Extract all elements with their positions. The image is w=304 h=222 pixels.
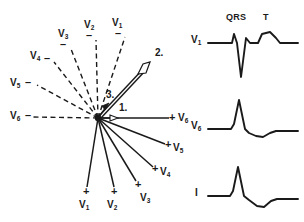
axis-v4-positive [98, 118, 153, 167]
axis-sign-v2-positive: + [111, 186, 117, 197]
axis-label-v4-negative-index: 4 [37, 55, 41, 62]
axis-label-v5-negative-index: 5 [17, 82, 21, 89]
axis-sign-v3-positive: + [135, 179, 141, 190]
axis-sign-v3-negative: – [60, 39, 66, 50]
axis-label-v6-positive: V6 [178, 113, 188, 123]
axis-label-v6-negative-index: 6 [17, 115, 21, 122]
waveform-v6-trace [208, 100, 298, 137]
axis-label-v1-positive-index: 1 [86, 204, 90, 211]
axis-label-v3-positive-index: 3 [147, 197, 151, 204]
positive-axes-group [87, 118, 169, 187]
axis-v5-negative [37, 85, 98, 118]
axis-sign-v6-negative: – [25, 110, 31, 121]
vector-1-arrowhead [110, 115, 118, 121]
axis-sign-v5-positive: + [165, 139, 171, 150]
negative-axes-group [33, 37, 125, 118]
annotation-qrs: QRS [226, 13, 246, 22]
axis-label-v4-positive-index: 4 [167, 171, 171, 178]
axis-v5-positive [98, 118, 165, 144]
figure-root: V1 – V2 – V3 – V4 – V5 – V6 – + V1 + V2 … [0, 0, 304, 222]
waveform-i-trace [208, 167, 298, 207]
waveform-v1-trace [208, 32, 298, 77]
axis-label-v5-positive-index: 5 [180, 147, 184, 154]
axis-label-v5-positive: V5 [173, 143, 183, 153]
axis-v2-positive [98, 118, 114, 187]
axis-label-v5-negative: V5 [10, 78, 20, 88]
vector-origin [95, 115, 101, 121]
waveform-label-v1-index: 1 [198, 39, 202, 46]
axis-v6-negative [33, 117, 98, 118]
waveform-label-lead-i: I [195, 188, 198, 198]
axis-v3-negative [71, 49, 98, 118]
axis-label-v6-positive-index: 6 [185, 117, 189, 124]
axis-v4-negative [54, 62, 98, 118]
axis-sign-v1-negative: – [115, 28, 121, 39]
axis-label-v6-negative: V6 [10, 111, 20, 121]
axis-sign-v4-negative: – [44, 53, 50, 64]
vector-label-2: 2. [155, 48, 163, 58]
figure-svg [0, 0, 304, 222]
waveform-label-v6-index: 6 [198, 125, 202, 132]
axis-v3-positive [98, 118, 136, 181]
axis-sign-v1-positive: + [83, 186, 89, 197]
axis-sign-v5-negative: – [25, 77, 31, 88]
axis-v1-positive [87, 118, 98, 187]
axis-sign-v6-positive: + [169, 112, 175, 123]
axis-sign-v2-negative: – [86, 30, 92, 41]
vector-2-arrowhead [138, 62, 150, 74]
axis-label-v1-positive: V1 [79, 200, 89, 210]
axis-sign-v4-positive: + [152, 163, 158, 174]
axis-v2-negative [96, 40, 98, 118]
annotation-t: T [263, 13, 269, 22]
vector-label-3: 3. [106, 90, 114, 100]
waveform-label-v1: V1 [191, 35, 201, 45]
axis-label-v4-positive: V4 [160, 167, 170, 177]
axis-label-v4-negative: V4 [30, 51, 40, 61]
axis-label-v2-positive: V2 [107, 200, 117, 210]
axis-label-v2-positive-index: 2 [114, 204, 118, 211]
axis-label-v3-positive: V3 [140, 193, 150, 203]
waveform-label-v6: V6 [191, 121, 201, 131]
vector-label-1: 1. [119, 103, 127, 113]
